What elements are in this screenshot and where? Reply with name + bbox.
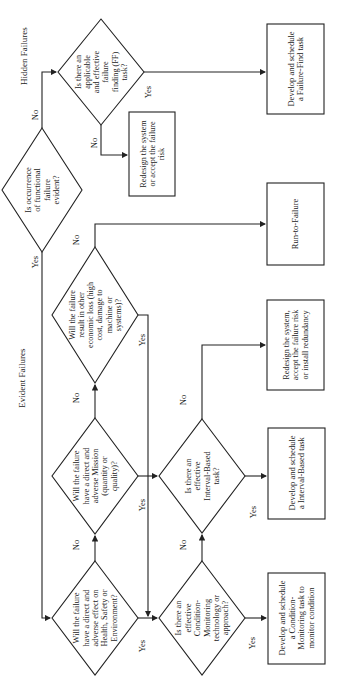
decision-economic-text-line: economic loss (high xyxy=(86,282,95,348)
decision-ff-task-text: Is there anapplicableand effectivefailur… xyxy=(74,50,129,93)
label-ff-yes-line: Yes xyxy=(143,86,153,98)
action-redesign-redundancy-text: Redesign the system,accept the failure r… xyxy=(282,309,309,381)
label-mission-no: No xyxy=(71,393,81,403)
label-interval-yes-line: Yes xyxy=(248,506,258,518)
action-redesign-redundancy-text-line: Redesign the system, xyxy=(282,310,291,379)
label-evident-no: No xyxy=(30,110,40,120)
action-redesign-redundancy-text-line: accept the failure risk xyxy=(291,309,300,381)
decision-evident-text-line: evident? xyxy=(51,175,61,204)
edge-evident-no xyxy=(42,72,56,128)
label-interval-no: No xyxy=(178,395,188,405)
decision-mission-text-line: quality)? xyxy=(110,461,119,491)
decision-ff-task-text-line: and effective xyxy=(92,50,101,93)
action-condition-task-text: Develop and schedulea Condition-Monitori… xyxy=(277,580,316,655)
edge-ff-no xyxy=(101,125,127,155)
label-ff-no-line: No xyxy=(89,138,99,148)
edge-economic-yes xyxy=(138,315,148,616)
label-ff-no: No xyxy=(89,138,99,148)
hidden-failures-label: Hidden Failures xyxy=(19,27,29,85)
decision-ff-task-text-line: failure xyxy=(101,61,110,83)
edge-interval-no xyxy=(202,345,265,419)
action-interval-task-text-line: Develop and schedule xyxy=(287,435,297,510)
evident-failures-label-line: Evident Failures xyxy=(17,348,27,408)
decision-ff-task-text-line: task? xyxy=(120,63,129,80)
label-economic-no: No xyxy=(71,235,81,245)
label-mission-no-line: No xyxy=(71,393,81,403)
decision-hse-text: Will the failurehave a direct andadverse… xyxy=(72,589,119,647)
action-run-to-failure-text-line: Run-to-Failure xyxy=(290,199,300,250)
label-mission-yes: Yes xyxy=(137,499,147,511)
action-condition-task-text-line: Develop and schedule xyxy=(277,580,287,655)
edge-economic-no xyxy=(95,224,265,247)
action-failure-find-text-line: a Failure-Find task xyxy=(295,36,305,101)
action-condition-task-text-line: a Condition- xyxy=(287,596,297,639)
action-redesign-accept-text: Redesign the systemor accept the failure… xyxy=(139,120,166,188)
decision-hse-text-line: have a direct and xyxy=(82,589,91,647)
label-mission-yes-line: Yes xyxy=(137,499,147,511)
decision-evident-text-line: failure xyxy=(42,179,52,201)
label-economic-yes: Yes xyxy=(137,334,147,346)
decision-ff-task-text-line: applicable xyxy=(83,55,92,89)
decision-condition-text-line: Is there an xyxy=(174,600,183,636)
decision-economic-text: Will the failureresult in othereconomic … xyxy=(68,282,123,348)
decision-interval-text-line: effective xyxy=(193,461,202,490)
label-interval-yes: Yes xyxy=(248,506,258,518)
label-hse-yes-line: Yes xyxy=(137,640,147,652)
decision-ff-task-text-line: Is there an xyxy=(74,55,83,89)
label-condition-no-line: No xyxy=(178,540,188,550)
decision-condition-text-line: Monitoring xyxy=(203,598,212,637)
decision-condition-text-line: Condition- xyxy=(193,600,202,637)
label-evident-yes: Yes xyxy=(30,256,40,268)
decision-economic-text-line: result in other xyxy=(77,292,86,338)
decision-hse-text-line: adverse effect on xyxy=(91,589,100,647)
decision-mission-text: Will the failurehave a direct andadverse… xyxy=(72,447,119,505)
label-condition-no: No xyxy=(178,540,188,550)
decision-mission-text-line: adverse Mission xyxy=(91,448,100,503)
decision-evident-text-line: of functional xyxy=(32,168,42,212)
label-economic-no-line: No xyxy=(71,235,81,245)
decision-condition-text-line: approach? xyxy=(221,601,230,636)
decision-condition-text-line: effective xyxy=(184,603,193,632)
decision-economic-text-line: Will the failure xyxy=(68,290,77,340)
label-interval-no-line: No xyxy=(178,395,188,405)
decision-economic-text-line: machine or xyxy=(105,296,114,333)
action-redesign-accept-text-line: or accept the failure xyxy=(148,121,157,187)
action-redesign-accept-text-line: risk xyxy=(157,147,166,160)
decision-hse-text-line: Environment? xyxy=(110,594,119,642)
decision-condition-text-line: technology or xyxy=(212,595,221,641)
label-condition-yes-line: Yes xyxy=(247,637,257,649)
label-evident-no-line: No xyxy=(30,110,40,120)
action-failure-find-text-line: Develop and schedule xyxy=(286,31,296,106)
action-interval-task-text: Develop and schedulea Interval-Based tas… xyxy=(287,435,307,510)
label-ff-yes: Yes xyxy=(143,86,153,98)
decision-mission-text-line: (quantity or xyxy=(100,456,109,496)
decision-mission-text-line: have a direct and xyxy=(82,447,91,505)
action-condition-task-text-line: Monitoring task to xyxy=(296,586,306,649)
decision-evident-text: Is occurrenceof functionalfailureevident… xyxy=(23,167,62,213)
label-evident-yes-line: Yes xyxy=(30,256,40,268)
rcm-decision-flowchart: Hidden FailuresEvident FailuresIs occurr… xyxy=(0,0,344,689)
edge-evident-yes xyxy=(42,252,50,618)
decision-interval-text-line: Interval-Based xyxy=(203,451,212,501)
decision-evident-text-line: Is occurrence xyxy=(23,167,33,213)
hidden-failures-label-line: Hidden Failures xyxy=(19,27,29,85)
decision-interval-text: Is there aneffectiveInterval-Basedtask? xyxy=(184,451,221,501)
label-hse-no-line: No xyxy=(71,540,81,550)
decision-mission-text-line: Will the failure xyxy=(72,450,81,501)
label-hse-yes: Yes xyxy=(137,640,147,652)
decision-economic-text-line: cost, damage to xyxy=(95,289,104,340)
action-redesign-redundancy-text-line: or install redundancy xyxy=(301,310,310,380)
label-hse-no: No xyxy=(71,540,81,550)
action-redesign-accept-text-line: Redesign the system xyxy=(139,120,148,188)
decision-interval-text-line: Is there an xyxy=(184,458,193,494)
evident-failures-label: Evident Failures xyxy=(17,348,27,408)
decision-ff-task-text-line: finding (FF) xyxy=(111,52,120,93)
decision-interval-text-line: task? xyxy=(212,467,221,484)
action-failure-find-text: Develop and schedulea Failure-Find task xyxy=(286,31,306,106)
action-run-to-failure-text: Run-to-Failure xyxy=(290,199,300,250)
decision-hse-text-line: Health, Safety or xyxy=(100,589,109,646)
decision-condition-text: Is there aneffectiveCondition-Monitoring… xyxy=(174,595,230,641)
label-condition-yes: Yes xyxy=(247,637,257,649)
decision-hse-text-line: Will the failure xyxy=(72,592,81,643)
label-economic-yes-line: Yes xyxy=(137,334,147,346)
